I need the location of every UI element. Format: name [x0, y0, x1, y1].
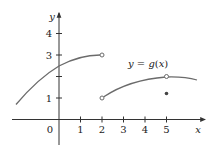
x-tick-label-2: 2	[99, 124, 105, 135]
x-tick-label-1: 1	[77, 124, 83, 135]
y-tick-label-3: 3	[46, 50, 52, 61]
open-startpoint-right	[100, 96, 104, 100]
y-tick-label-4: 4	[46, 28, 52, 39]
graph-of-g: 0 1 2 3 4 5 1 3 4 x y y = g(x)	[0, 0, 218, 158]
curve-left-branch	[16, 55, 100, 105]
open-endpoint-left	[100, 53, 104, 57]
curve-right-branch	[104, 77, 197, 97]
function-label: y = g(x)	[127, 58, 168, 69]
x-tick-label-0: 0	[47, 124, 53, 135]
y-tick-label-1: 1	[46, 93, 52, 104]
x-axis-label: x	[195, 124, 201, 135]
x-tick-label-4: 4	[142, 124, 148, 135]
y-axis-label: y	[48, 11, 55, 22]
hole-at-5	[165, 75, 169, 79]
x-tick-label-3: 3	[120, 124, 126, 135]
x-tick-label-5: 5	[163, 124, 169, 135]
filled-point-at-5	[165, 92, 169, 96]
